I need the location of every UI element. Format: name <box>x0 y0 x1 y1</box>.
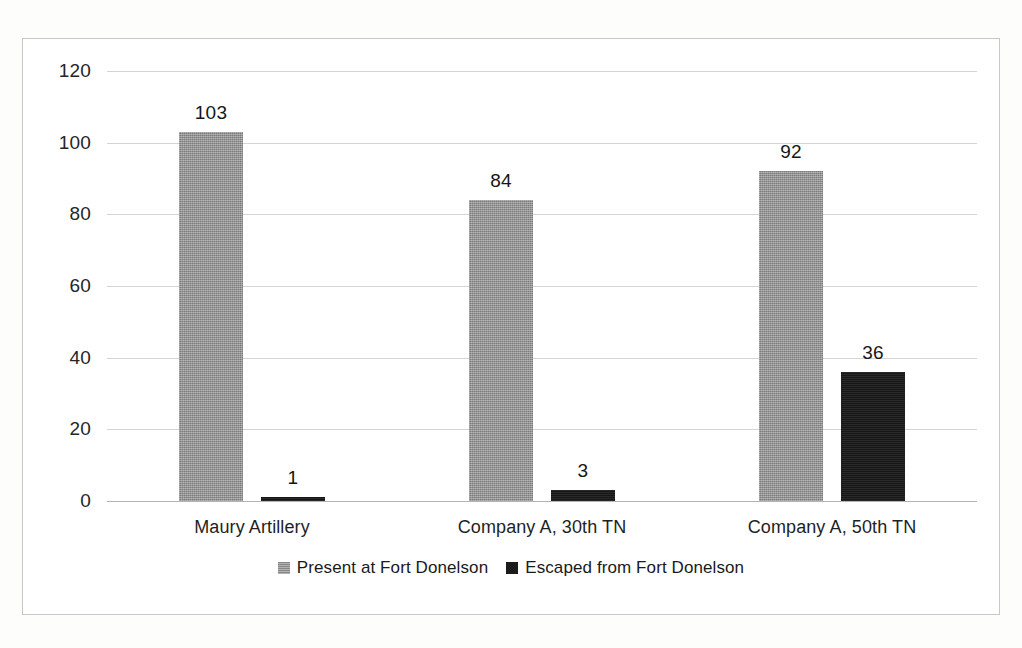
y-axis-tick-label: 40 <box>69 347 91 369</box>
chart-frame: 0204060801001201031Maury Artillery843Com… <box>22 38 1000 615</box>
y-axis-tick-label: 100 <box>59 132 91 154</box>
bar-value-label: 103 <box>195 102 227 124</box>
bar-escaped[interactable] <box>551 490 615 501</box>
y-axis-tick-label: 80 <box>69 203 91 225</box>
bar-value-label: 92 <box>780 141 802 163</box>
legend-label: Escaped from Fort Donelson <box>525 558 744 578</box>
bar-present[interactable] <box>469 200 533 501</box>
bar-escaped[interactable] <box>261 497 325 501</box>
y-axis-tick-label: 20 <box>69 418 91 440</box>
y-axis-tick-label: 120 <box>59 60 91 82</box>
x-axis-category-label: Maury Artillery <box>194 517 310 538</box>
bar-group: 843Company A, 30th TN <box>397 71 687 501</box>
gridline-0 <box>107 501 977 502</box>
bar-value-label: 1 <box>288 467 299 489</box>
bar-present[interactable] <box>179 132 243 501</box>
bar-value-label: 3 <box>578 460 589 482</box>
bar-escaped[interactable] <box>841 372 905 501</box>
legend-item[interactable]: Escaped from Fort Donelson <box>506 558 744 578</box>
x-axis-category-label: Company A, 30th TN <box>458 517 627 538</box>
y-axis-tick-label: 60 <box>69 275 91 297</box>
bar-value-label: 84 <box>490 170 512 192</box>
black-square-icon <box>506 562 518 574</box>
x-axis-category-label: Company A, 50th TN <box>748 517 917 538</box>
legend-label: Present at Fort Donelson <box>297 558 488 578</box>
bar-group: 1031Maury Artillery <box>107 71 397 501</box>
legend-item[interactable]: Present at Fort Donelson <box>278 558 488 578</box>
bar-group: 9236Company A, 50th TN <box>687 71 977 501</box>
gray-square-icon <box>278 562 290 574</box>
y-axis-tick-label: 0 <box>80 490 91 512</box>
chart-legend: Present at Fort DonelsonEscaped from For… <box>23 558 999 578</box>
bar-present[interactable] <box>759 171 823 501</box>
bar-value-label: 36 <box>862 342 884 364</box>
plot-area: 0204060801001201031Maury Artillery843Com… <box>107 71 977 501</box>
